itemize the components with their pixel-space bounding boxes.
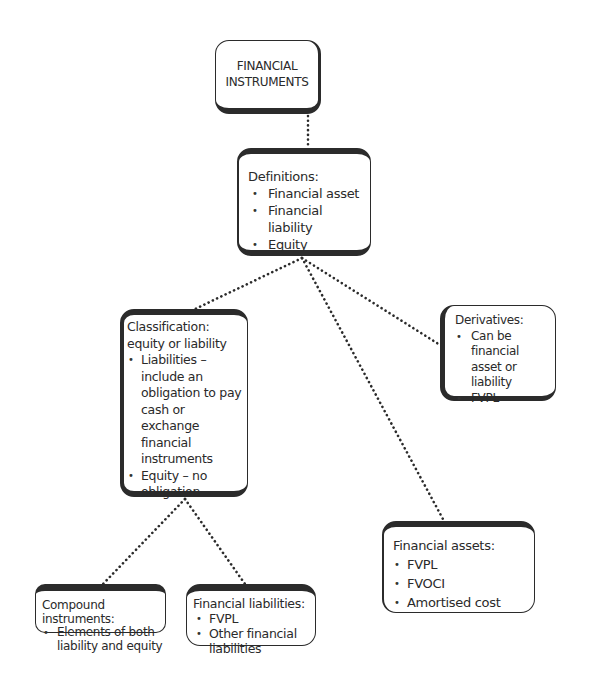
liabilities-title: Financial liabilities: bbox=[193, 596, 313, 611]
node-compound-instruments: Compound instruments: Elements of both l… bbox=[35, 584, 166, 633]
classification-item: Equity – no obligation bbox=[127, 468, 243, 501]
node-financial-assets: Financial assets: FVPL FVOCI Amortised c… bbox=[382, 521, 535, 613]
assets-item: FVOCI bbox=[393, 574, 530, 593]
derivatives-title: Derivatives: bbox=[455, 313, 551, 329]
definitions-item: Financial asset bbox=[248, 185, 366, 202]
definitions-item: Financial liability bbox=[248, 202, 366, 236]
definitions-item: Equity bbox=[248, 236, 366, 253]
root-node-financial-instruments: FINANCIAL INSTRUMENTS bbox=[215, 40, 321, 114]
root-title-line2: INSTRUMENTS bbox=[216, 74, 318, 90]
edge-definitions-classification bbox=[195, 258, 302, 309]
assets-list: FVPL FVOCI Amortised cost bbox=[393, 555, 530, 612]
liabilities-item: FVPL bbox=[193, 611, 313, 626]
derivatives-item: Can be financial asset or liability bbox=[455, 329, 551, 391]
liabilities-list: FVPL Other financial liabilities bbox=[193, 611, 313, 656]
compound-list: Elements of both liability and equity bbox=[42, 626, 163, 653]
node-financial-liabilities: Financial liabilities: FVPL Other financ… bbox=[186, 584, 316, 646]
derivatives-list: Can be financial asset or liability FVPL bbox=[455, 329, 551, 407]
edge-classification-liabilities bbox=[185, 499, 245, 584]
classification-title-line2: equity or liability bbox=[127, 336, 243, 353]
definitions-title: Definitions: bbox=[248, 168, 366, 185]
edge-classification-compound bbox=[103, 499, 185, 584]
assets-item: FVPL bbox=[393, 555, 530, 574]
assets-item: Amortised cost bbox=[393, 593, 530, 612]
root-title-line1: FINANCIAL bbox=[216, 58, 318, 74]
node-classification: Classification: equity or liability Liab… bbox=[120, 309, 248, 497]
classification-item: Liabilities – include an obligation to p… bbox=[127, 352, 243, 468]
classification-title-line1: Classification: bbox=[127, 319, 243, 336]
compound-item: Elements of both liability and equity bbox=[42, 626, 163, 653]
node-derivatives: Derivatives: Can be financial asset or l… bbox=[440, 305, 556, 401]
definitions-list: Financial asset Financial liability Equi… bbox=[248, 185, 366, 253]
compound-title: Compound instruments: bbox=[42, 599, 163, 626]
liabilities-item: Other financial liabilities bbox=[193, 626, 313, 656]
assets-title: Financial assets: bbox=[393, 536, 530, 555]
edge-definitions-assets bbox=[302, 258, 444, 521]
edge-definitions-derivatives bbox=[302, 258, 440, 345]
classification-list: Liabilities – include an obligation to p… bbox=[127, 352, 243, 501]
derivatives-item: FVPL bbox=[455, 391, 551, 407]
node-definitions: Definitions: Financial asset Financial l… bbox=[237, 148, 371, 256]
